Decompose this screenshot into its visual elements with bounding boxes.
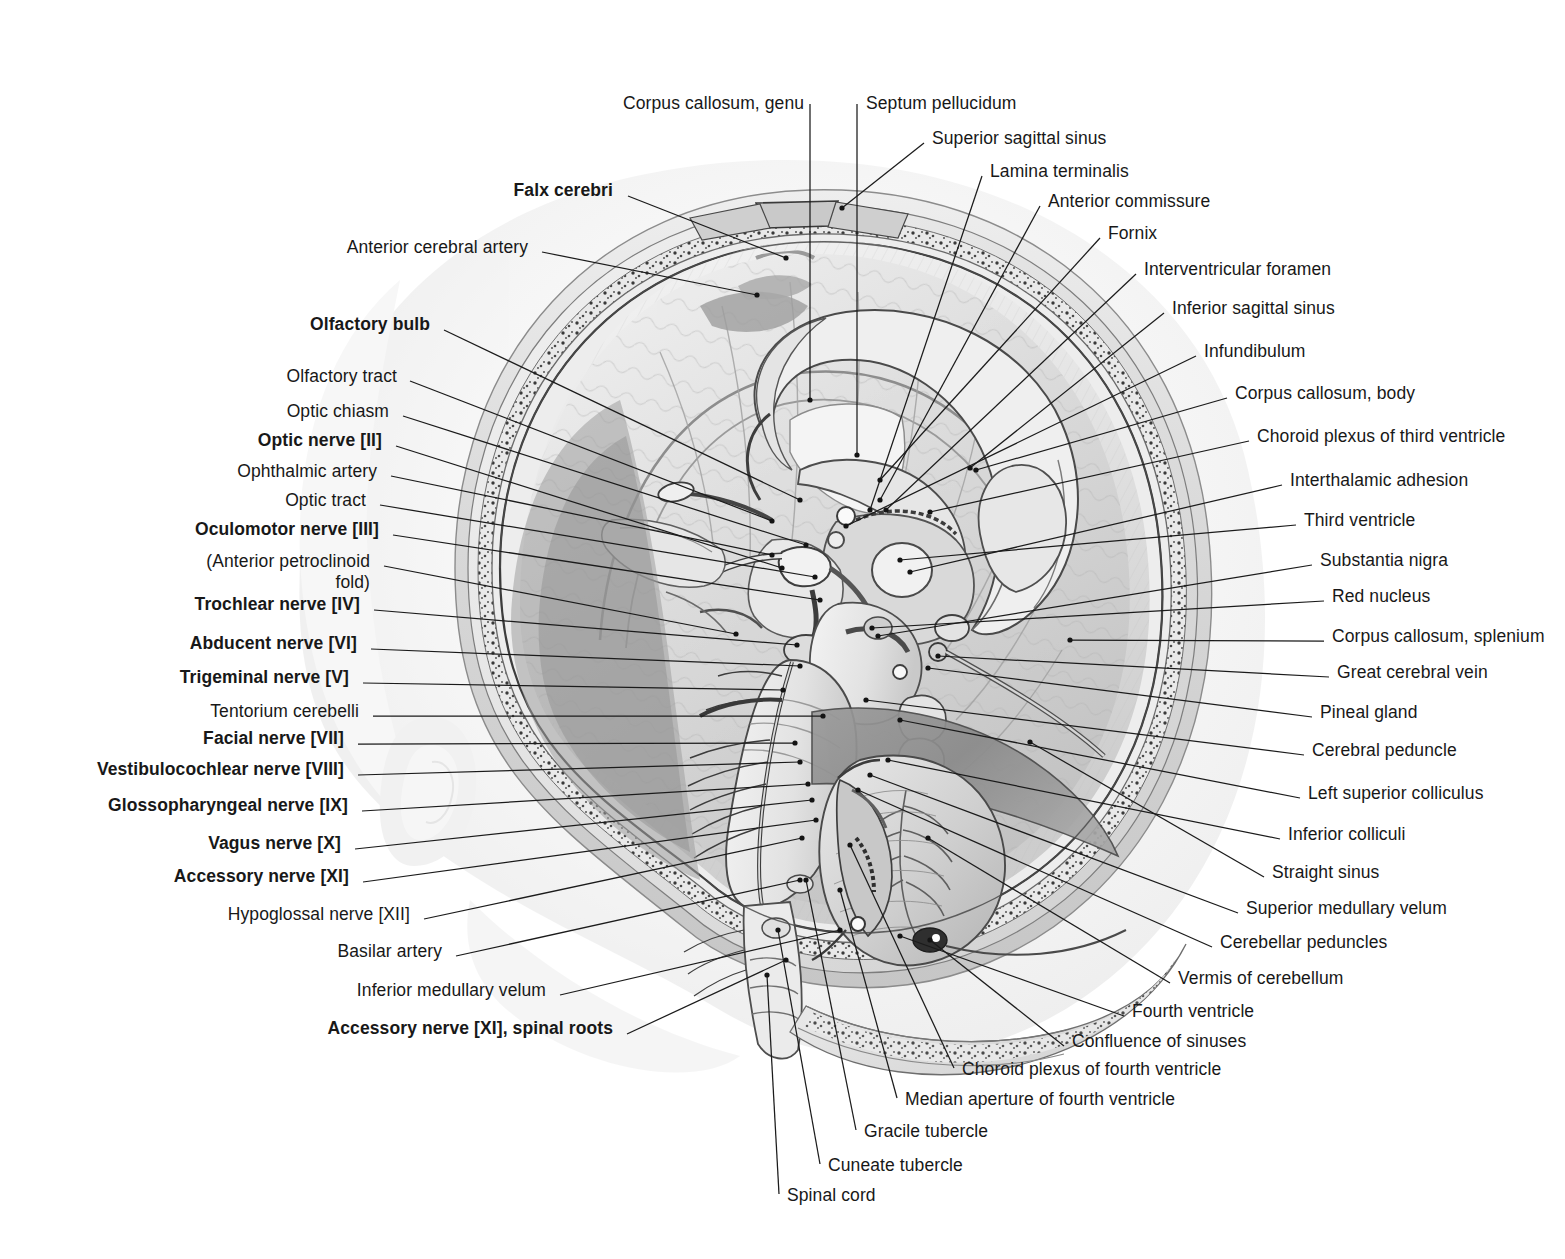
leader-choroid-plexus-of-fourth-ventricle [850,845,954,1068]
leader-endpoint-red-nucleus [869,625,874,630]
leader-cuneate-tubercle [778,930,820,1164]
leader-endpoint-hypoglossal-nerve [799,835,804,840]
leader-straight-sinus [1030,742,1264,877]
leader-endpoint-fourth-ventricle [897,933,902,938]
leader-endpoint-corpus-callosum-splenium [1067,637,1072,642]
leader-substantia-nigra [878,565,1312,636]
label-optic-chiasm: Optic chiasm [287,400,389,422]
label-fornix: Fornix [1108,222,1157,244]
label-infundibulum: Infundibulum [1204,340,1305,362]
leader-great-cerebral-vein [938,656,1329,677]
label-basilar-artery: Basilar artery [338,940,443,962]
label-choroid-plexus-of-third-ventricle: Choroid plexus of third ventricle [1257,425,1505,447]
label-substantia-nigra: Substantia nigra [1320,549,1448,571]
leader-accessory-nerve-spinal-roots [627,960,786,1034]
leader-abducent-nerve [371,649,800,666]
label-superior-sagittal-sinus: Superior sagittal sinus [932,127,1106,149]
leader-lines [0,0,1565,1259]
leader-endpoint-vestibulocochlear-nerve [797,759,802,764]
leader-endpoint-anterior-cerebral-artery [754,292,759,297]
label-glossopharyngeal-nerve: Glossopharyngeal nerve [IX] [108,794,348,816]
leader-endpoint-ophthalmic-artery [769,552,774,557]
leader-spinal-cord [767,975,779,1194]
leader-left-superior-colliculus [900,720,1300,798]
label-trigeminal-nerve: Trigeminal nerve [V] [180,666,349,688]
label-vagus-nerve: Vagus nerve [X] [208,832,341,854]
label-optic-tract: Optic tract [285,489,366,511]
label-cerebral-peduncle: Cerebral peduncle [1312,739,1457,761]
label-anterior-commissure: Anterior commissure [1048,190,1210,212]
leader-red-nucleus [872,601,1324,628]
label-inferior-medullary-velum: Inferior medullary velum [357,979,546,1001]
leader-endpoint-straight-sinus [1027,739,1032,744]
leader-endpoint-left-superior-colliculus [897,717,902,722]
leader-pineal-gland [928,668,1312,717]
label-olfactory-bulb: Olfactory bulb [310,313,430,335]
leader-endpoint-abducent-nerve [797,663,802,668]
leader-endpoint-corpus-callosum-genu [807,397,812,402]
leader-endpoint-trigeminal-nerve [780,687,785,692]
leader-endpoint-facial-nerve [792,740,797,745]
label-anterior-cerebral-artery: Anterior cerebral artery [347,236,528,258]
leader-choroid-plexus-of-third-ventricle [930,441,1249,512]
leader-endpoint-inferior-colliculi [885,757,890,762]
label-left-superior-colliculus: Left superior colliculus [1308,782,1484,804]
leader-endpoint-superior-medullary-velum [867,772,872,777]
label-superior-medullary-velum: Superior medullary velum [1246,897,1447,919]
leader-endpoint-pineal-gland [925,665,930,670]
leader-superior-sagittal-sinus [842,143,924,208]
label-fold: fold) [335,571,370,593]
leader-endpoint-tentorium-cerebelli [820,713,825,718]
leader-endpoint-optic-chiasm [803,542,808,547]
label-anterior-petroclinoid: (Anterior petroclinoid [206,550,370,572]
leader-inferior-sagittal-sinus [970,313,1164,468]
leader-corpus-callosum-body [976,398,1227,470]
leader-inferior-colliculi [888,760,1280,839]
label-corpus-callosum-splenium: Corpus callosum, splenium [1332,625,1545,647]
leader-endpoint-trochlear-nerve [794,642,799,647]
leader-endpoint-accessory-nerve [813,817,818,822]
leader-inferior-medullary-velum [560,930,840,995]
leader-hypoglossal-nerve [424,838,802,919]
label-cuneate-tubercle: Cuneate tubercle [828,1154,963,1176]
leader-endpoint-cerebral-peduncle [863,697,868,702]
label-choroid-plexus-of-fourth-ventricle: Choroid plexus of fourth ventricle [962,1058,1221,1080]
leader-optic-chiasm [403,416,806,545]
label-vermis-of-cerebellum: Vermis of cerebellum [1178,967,1343,989]
label-abducent-nerve: Abducent nerve [VI] [190,632,357,654]
leader-gracile-tubercle [806,880,856,1130]
label-median-aperture-of-fourth-ventricle: Median aperture of fourth ventricle [905,1088,1175,1110]
leader-endpoint-choroid-plexus-of-third-ventricle [927,509,932,514]
leader-endpoint-median-aperture-of-fourth-ventricle [837,887,842,892]
leader-endpoint-vagus-nerve [809,797,814,802]
label-optic-nerve: Optic nerve [II] [258,429,382,451]
leader-falx-cerebri [628,196,786,258]
leader-trigeminal-nerve [363,683,783,690]
leader-superior-medullary-velum [870,775,1238,913]
leader-endpoint-superior-sagittal-sinus [839,205,844,210]
leader-cerebral-peduncle [866,700,1304,755]
label-cerebellar-peduncles: Cerebellar peduncles [1220,931,1387,953]
leader-endpoint-vermis-of-cerebellum [925,835,930,840]
leader-endpoint-optic-tract [812,574,817,579]
label-tentorium-cerebelli: Tentorium cerebelli [210,700,359,722]
label-olfactory-tract: Olfactory tract [287,365,397,387]
label-falx-cerebri: Falx cerebri [514,179,613,201]
leader-vestibulocochlear-nerve [358,762,800,775]
label-third-ventricle: Third ventricle [1304,509,1415,531]
label-accessory-nerve-spinal-roots: Accessory nerve [XI], spinal roots [328,1017,613,1039]
label-great-cerebral-vein: Great cerebral vein [1337,661,1488,683]
leader-endpoint-olfactory-tract [769,518,774,523]
label-oculomotor-nerve: Oculomotor nerve [III] [195,518,379,540]
leader-endpoint-oculomotor-nerve [817,597,822,602]
leader-endpoint-confluence-of-sinuses [927,937,932,942]
leader-endpoint-gracile-tubercle [803,877,808,882]
leader-endpoint-third-ventricle [897,557,902,562]
leader-fourth-ventricle [900,936,1124,1016]
label-vestibulocochlear-nerve: Vestibulocochlear nerve [VIII] [97,758,344,780]
label-corpus-callosum-genu: Corpus callosum, genu [623,92,804,114]
label-lamina-terminalis: Lamina terminalis [990,160,1129,182]
leader-endpoint-anterior-petroclinoid [733,631,738,636]
label-straight-sinus: Straight sinus [1272,861,1379,883]
leader-endpoint-inferior-medullary-velum [837,927,842,932]
